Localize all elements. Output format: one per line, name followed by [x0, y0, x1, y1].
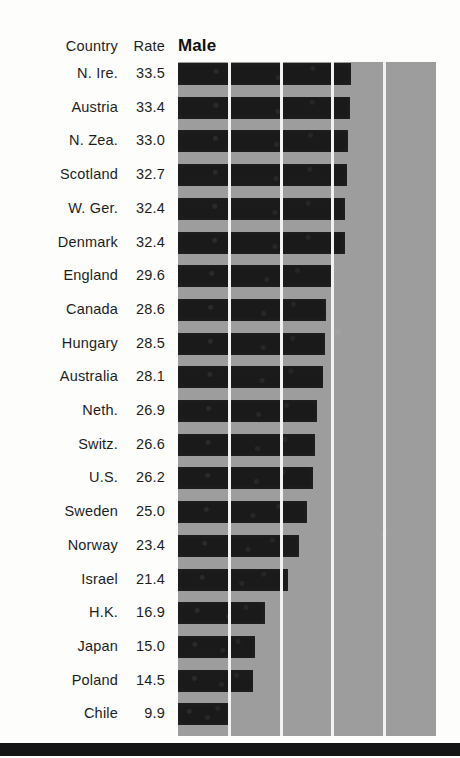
row-label-country: Poland — [0, 672, 118, 688]
row-label-country: Scotland — [0, 166, 118, 182]
row-label-country: Israel — [0, 571, 118, 587]
bar-neth — [178, 400, 317, 422]
bar-chile — [178, 703, 229, 725]
bar-england — [178, 265, 331, 287]
row-label-rate: 32.7 — [118, 166, 165, 182]
row-label-rate: 21.4 — [118, 571, 165, 587]
gridline-30 — [331, 62, 334, 736]
row-label-rate: 32.4 — [118, 234, 165, 250]
bar-hungary — [178, 333, 325, 355]
row-label-rate: 28.1 — [118, 368, 165, 384]
row-label-rate: 26.2 — [118, 469, 165, 485]
gridline-40 — [383, 62, 386, 736]
row-label-rate: 33.0 — [118, 132, 165, 148]
row-label-rate: 15.0 — [118, 638, 165, 654]
row-label-country: U.S. — [0, 469, 118, 485]
row-label-country: W. Ger. — [0, 200, 118, 216]
row-label-rate: 32.4 — [118, 200, 165, 216]
row-label-rate: 29.6 — [118, 267, 165, 283]
bar-switz — [178, 434, 315, 456]
bar-h-k — [178, 602, 265, 624]
row-label-country: H.K. — [0, 604, 118, 620]
bar-israel — [178, 569, 288, 591]
gridline-20 — [280, 62, 283, 736]
row-label-country: Sweden — [0, 503, 118, 519]
bar-sweden — [178, 501, 307, 523]
bar-canada — [178, 299, 326, 321]
bar-japan — [178, 636, 255, 658]
row-label-country: Denmark — [0, 234, 118, 250]
bar-n-zea — [178, 130, 348, 152]
column-header-rate: Rate — [118, 38, 165, 54]
chart-page: Country Rate Male N. Ire.33.5Austria33.4… — [0, 0, 460, 758]
row-label-country: N. Zea. — [0, 132, 118, 148]
row-label-country: N. Ire. — [0, 65, 118, 81]
row-label-country: Switz. — [0, 436, 118, 452]
table-header: Country Rate Male — [0, 38, 460, 60]
bar-denmark — [178, 232, 345, 254]
row-label-country: Neth. — [0, 402, 118, 418]
row-label-rate: 23.4 — [118, 537, 165, 553]
chart-title-male: Male — [178, 36, 216, 56]
column-header-country: Country — [0, 38, 118, 54]
bar-w-ger — [178, 198, 345, 220]
row-label-country: Norway — [0, 537, 118, 553]
row-label-rate: 26.9 — [118, 402, 165, 418]
row-label-country: Austria — [0, 99, 118, 115]
row-label-country: Japan — [0, 638, 118, 654]
bar-poland — [178, 670, 253, 692]
row-label-rate: 9.9 — [118, 705, 165, 721]
row-label-country: Hungary — [0, 335, 118, 351]
bar-u-s — [178, 467, 313, 489]
row-label-rate: 14.5 — [118, 672, 165, 688]
row-label-rate: 26.6 — [118, 436, 165, 452]
bar-austria — [178, 97, 350, 119]
row-label-rate: 28.5 — [118, 335, 165, 351]
gridline-10 — [228, 62, 231, 736]
row-label-country: Chile — [0, 705, 118, 721]
bar-scotland — [178, 164, 347, 186]
bar-n-ire — [178, 63, 351, 85]
row-label-rate: 33.5 — [118, 65, 165, 81]
row-label-country: England — [0, 267, 118, 283]
plot-area — [178, 62, 436, 736]
row-label-rate: 28.6 — [118, 301, 165, 317]
row-label-country: Canada — [0, 301, 118, 317]
row-label-rate: 25.0 — [118, 503, 165, 519]
row-label-country: Australia — [0, 368, 118, 384]
row-label-rate: 16.9 — [118, 604, 165, 620]
row-label-rate: 33.4 — [118, 99, 165, 115]
bottom-rule — [0, 743, 460, 756]
bar-australia — [178, 366, 323, 388]
